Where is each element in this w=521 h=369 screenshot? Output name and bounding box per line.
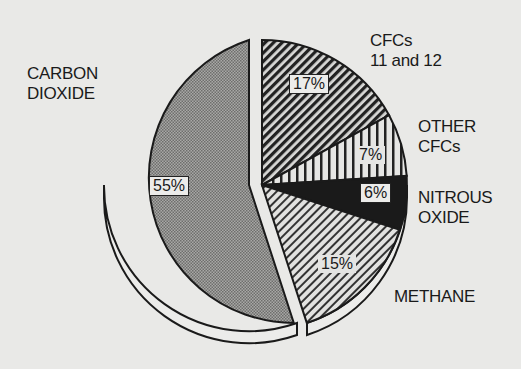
pct-other-cfcs: 7% [356,146,385,164]
label-nitrous-oxide: NITROUS OXIDE [418,188,492,228]
label-other-cfcs: OTHER CFCs [418,117,476,157]
pie-chart: 55% 17% 7% 6% 15% CARBON DIOXIDE CFCs 11… [0,0,521,369]
label-carbon-dioxide: CARBON DIOXIDE [27,64,98,104]
label-methane: METHANE [394,287,475,307]
label-cfcs-11-12: CFCs 11 and 12 [370,31,442,71]
pct-nitrous-oxide: 6% [360,183,391,203]
pie-graphic [0,0,521,369]
pct-methane: 15% [318,255,356,273]
pct-cfcs-11-12: 17% [289,74,329,94]
pct-carbon-dioxide: 55% [149,176,189,196]
